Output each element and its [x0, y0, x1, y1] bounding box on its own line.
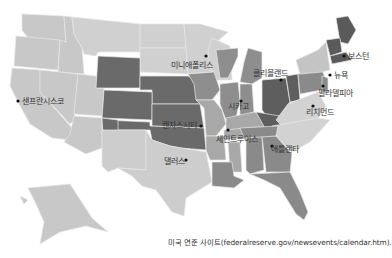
district-new-york: [296, 42, 330, 74]
state-north-dakota: [140, 24, 186, 48]
state-wyoming: [96, 56, 140, 88]
city-label: 뉴욕: [334, 71, 348, 80]
city-dot-icon: [321, 84, 324, 87]
state-new-york: [296, 42, 330, 74]
city-label: 미니애폴리스: [171, 60, 213, 70]
state-michigan: [240, 48, 262, 84]
city-label: 샌프란시스코: [22, 96, 64, 106]
state-oregon: [14, 36, 60, 70]
city-dot-icon: [199, 124, 202, 127]
state-new-mexico-2: [102, 130, 146, 172]
city-dot-icon: [226, 128, 229, 131]
city-label: 시카고: [228, 102, 249, 111]
state-colorado: [102, 90, 152, 120]
city-label: 리치먼드: [306, 107, 334, 117]
city-label: 애틀랜타: [271, 144, 300, 154]
city-dot-icon: [204, 54, 207, 57]
state-hawaii: [20, 196, 28, 204]
city-dot-icon: [328, 73, 331, 76]
source-caption: 미국 연준 사이트(federalreserve.gov/newsevents/…: [168, 236, 392, 247]
state-michigan-up: [216, 48, 238, 78]
city-dot-icon: [342, 54, 345, 57]
state-florida: [250, 172, 308, 220]
state-alaska: [28, 184, 108, 244]
city-label: 캔자스시티: [162, 120, 197, 130]
city-label: 필라델피아: [318, 88, 354, 98]
city-label: 세인트루이스: [216, 134, 258, 144]
city-label: 댈러스: [164, 156, 185, 166]
city-dot-icon: [279, 78, 282, 81]
city-label: 보스턴: [348, 51, 369, 61]
city-dot-icon: [16, 99, 19, 102]
district-minneapolis: [72, 17, 232, 80]
city-label: 클리블랜드: [253, 68, 288, 78]
